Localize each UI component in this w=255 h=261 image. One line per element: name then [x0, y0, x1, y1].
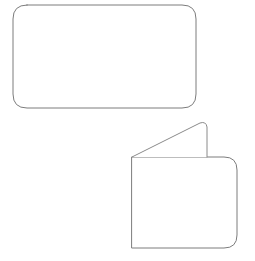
drawing-canvas [0, 0, 255, 261]
figure-svg [0, 0, 255, 261]
folded-card-body [132, 157, 237, 248]
rounded-rectangle [13, 5, 196, 108]
